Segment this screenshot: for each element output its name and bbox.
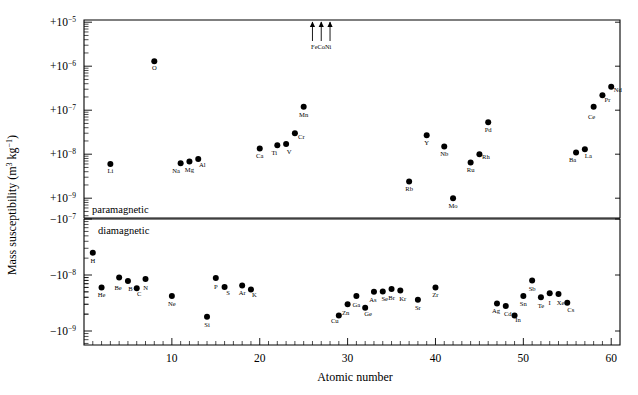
data-point-label: Cs (567, 306, 574, 313)
data-point-label: Ba (569, 156, 576, 163)
data-point (178, 160, 184, 166)
x-tick-label: 10 (166, 352, 178, 364)
x-tick-label: 40 (430, 352, 442, 364)
x-tick-label: 60 (605, 352, 617, 364)
data-point-label: H (90, 257, 95, 264)
data-point (257, 145, 263, 151)
data-point (520, 293, 526, 299)
data-point (204, 314, 210, 320)
data-point-label: O (152, 64, 157, 71)
data-point-label: S (226, 289, 230, 296)
mass-susceptibility-chart: Mass susceptibility (m3 kg−1) +10−5+10−6… (0, 0, 638, 395)
data-point-label: Te (538, 302, 545, 309)
data-point-label: Rh (482, 153, 490, 160)
data-point (116, 275, 122, 281)
data-point (239, 282, 245, 288)
data-point-label: C (137, 290, 142, 297)
data-point (555, 291, 561, 297)
data-point-label: Zn (342, 309, 350, 316)
data-point-label: Y (424, 139, 429, 146)
x-tick-label: 20 (254, 352, 266, 364)
diamagnetic-region-label: diamagnetic (98, 225, 150, 236)
data-point-label: Mo (448, 202, 458, 209)
data-point-label: V (287, 148, 292, 155)
chart-background (0, 0, 638, 395)
data-point-label: Mn (299, 111, 309, 118)
data-point-label: Cd (504, 310, 512, 317)
x-tick-label: 30 (342, 352, 354, 364)
data-point-label: Se (381, 295, 388, 302)
data-point-label: Nd (614, 86, 623, 93)
data-point (283, 141, 289, 147)
data-point-label: Ga (353, 301, 361, 308)
data-point-label: Ti (271, 149, 277, 156)
data-point-label: Ar (239, 289, 247, 296)
data-point (213, 275, 219, 281)
data-point-label: Sn (520, 300, 528, 307)
data-point (186, 159, 192, 165)
chart-svg: Mass susceptibility (m3 kg−1) +10−5+10−6… (0, 0, 638, 395)
data-point (591, 104, 597, 110)
data-point (353, 293, 359, 299)
data-point-label: Ne (168, 300, 176, 307)
data-point-label: Na (172, 167, 180, 174)
x-axis-title: Atomic number (317, 370, 393, 384)
data-point (397, 287, 403, 293)
data-point (468, 159, 474, 165)
data-point (547, 290, 553, 296)
data-point-label: Cu (331, 317, 339, 324)
data-point-label: In (515, 316, 521, 323)
data-point (169, 293, 175, 299)
data-point-label: Br (388, 294, 395, 301)
data-point (432, 284, 438, 290)
data-point-label: Zr (432, 291, 439, 298)
data-point-label: N (143, 284, 148, 291)
data-point (529, 277, 535, 283)
data-point-label: Ru (467, 166, 475, 173)
data-point-label: Sr (415, 304, 422, 311)
data-point-label: Li (107, 167, 113, 174)
data-point (125, 278, 131, 284)
data-point-label: Al (199, 161, 206, 168)
data-point-label: Pd (485, 126, 493, 133)
data-point-label: Ce (588, 113, 595, 120)
data-point (538, 294, 544, 300)
data-point (424, 132, 430, 138)
data-point (380, 288, 386, 294)
data-point (99, 284, 105, 290)
data-point-label: Kr (399, 295, 407, 302)
data-point-label: Rb (405, 185, 413, 192)
data-point (292, 130, 298, 136)
paramagnetic-region-label: paramagnetic (92, 204, 149, 215)
data-point-label: Cr (298, 133, 305, 140)
data-point (301, 104, 307, 110)
data-point-label: As (369, 296, 377, 303)
data-point (485, 119, 491, 125)
data-point (345, 301, 351, 307)
data-point-label: He (98, 291, 106, 298)
data-point-label: Be (114, 284, 121, 291)
data-point-label: Sb (529, 285, 537, 292)
data-point (371, 289, 377, 295)
ferromagnetic-arrow-label: FeCoNi (311, 43, 331, 50)
data-point-label: Ge (364, 310, 372, 317)
data-point (90, 250, 96, 256)
data-point (450, 195, 456, 201)
data-point-label: K (252, 291, 257, 298)
data-point-label: La (585, 152, 592, 159)
x-tick-label: 50 (518, 352, 530, 364)
data-point-label: B (128, 285, 133, 292)
data-point (143, 276, 149, 282)
data-point (441, 143, 447, 149)
data-point-label: Nb (440, 150, 449, 157)
data-point (389, 286, 395, 292)
data-point-label: Ca (256, 152, 263, 159)
data-point-label: Ag (492, 307, 501, 314)
data-point-label: Pr (604, 96, 611, 103)
data-point (406, 178, 412, 184)
y-axis-title: Mass susceptibility (m3 kg−1) (5, 135, 20, 275)
data-point (573, 149, 579, 155)
data-point (503, 303, 509, 309)
data-point-label: Mg (185, 166, 195, 173)
data-point (274, 142, 280, 148)
